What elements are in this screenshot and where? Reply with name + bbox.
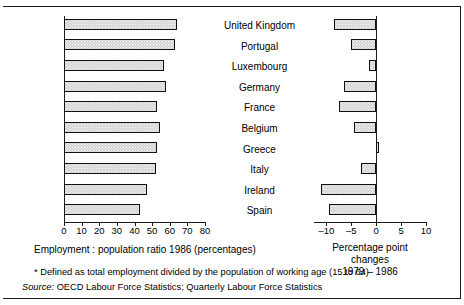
source-label: Source:	[22, 282, 54, 292]
bar	[64, 81, 166, 92]
bar-row	[314, 98, 426, 119]
bar-row	[64, 37, 205, 58]
bar	[321, 184, 376, 195]
bar-row	[64, 140, 205, 161]
bar-row	[64, 98, 205, 119]
axis-tick-label: 40	[129, 225, 140, 236]
axis-tick-label: 20	[94, 225, 105, 236]
axis-tick-label: 10	[421, 225, 432, 236]
right-caption-line1: Percentage point changes	[332, 242, 408, 265]
bar-row	[64, 160, 205, 181]
category-label: Greece	[205, 140, 314, 161]
category-label: Luxembourg	[205, 57, 314, 78]
bar-row	[314, 37, 426, 58]
axis-tick-label: 70	[182, 225, 193, 236]
category-label: United Kingdom	[205, 16, 314, 37]
left-panel-axis-caption: Employment : population ratio 1986 (perc…	[34, 244, 256, 256]
bar	[354, 122, 376, 133]
axis-tick-label: 60	[164, 225, 175, 236]
bar-row	[64, 16, 205, 37]
axis-tick-label: 0	[374, 225, 379, 236]
bar	[361, 163, 376, 174]
source-text: OECD Labour Force Statistics; Quarterly …	[57, 282, 323, 292]
bar	[334, 19, 376, 30]
category-labels: United KingdomPortugalLuxembourgGermanyF…	[205, 16, 314, 222]
bar	[64, 39, 175, 50]
bar-row	[314, 181, 426, 202]
footnote-definition: * Defined as total employment divided by…	[34, 266, 369, 278]
category-label: Portugal	[205, 37, 314, 58]
bar-row	[64, 181, 205, 202]
bar-row	[314, 57, 426, 78]
chart-panel-employment-ratio: 01020304050607080	[64, 16, 205, 222]
category-label: Germany	[205, 78, 314, 99]
bar	[344, 81, 376, 92]
chart-panel-percentage-changes: –10–50510	[314, 16, 426, 222]
footnote-source: Source: OECD Labour Force Statistics; Qu…	[22, 281, 322, 293]
category-label: Italy	[205, 160, 314, 181]
axis-tick-label: 30	[112, 225, 123, 236]
category-label: Spain	[205, 201, 314, 222]
bar-row	[314, 119, 426, 140]
bar	[64, 142, 157, 153]
bar-row	[314, 160, 426, 181]
axis-tick-label: 10	[76, 225, 87, 236]
bar	[64, 101, 157, 112]
axis-tick-label: 0	[61, 225, 66, 236]
figure-container: 01020304050607080 United KingdomPortugal…	[0, 0, 464, 305]
bar	[64, 60, 164, 71]
bar-row	[64, 119, 205, 140]
frame-right-rule	[460, 6, 461, 298]
category-label: Ireland	[205, 181, 314, 202]
bar	[64, 184, 147, 195]
bar-row	[314, 140, 426, 161]
right-panel-x-axis	[314, 222, 426, 223]
bar	[329, 204, 376, 215]
bar	[351, 39, 376, 50]
bar-row	[314, 201, 426, 222]
axis-tick-label: 5	[398, 225, 403, 236]
bar-row	[64, 201, 205, 222]
bar-row	[314, 16, 426, 37]
axis-tick-label: 50	[147, 225, 158, 236]
bar-row	[64, 57, 205, 78]
bar-row	[64, 78, 205, 99]
bar	[376, 142, 379, 153]
bar	[339, 101, 376, 112]
bar	[369, 60, 376, 71]
axis-tick-label: 80	[200, 225, 211, 236]
category-label: France	[205, 98, 314, 119]
frame-bottom-rule	[3, 298, 461, 299]
bar	[64, 204, 140, 215]
axis-tick-label: –10	[319, 225, 335, 236]
bar	[64, 122, 160, 133]
bar-row	[314, 78, 426, 99]
frame-top-rule	[3, 6, 461, 7]
category-label: Belgium	[205, 119, 314, 140]
axis-tick-label: –5	[346, 225, 357, 236]
bar	[64, 163, 156, 174]
bar	[64, 19, 177, 30]
